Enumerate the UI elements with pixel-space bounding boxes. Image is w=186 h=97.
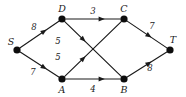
node-D[interactable]	[58, 15, 65, 22]
arrowhead-D-C	[99, 17, 105, 22]
arrowhead-S-A	[40, 64, 47, 69]
node-B[interactable]	[120, 75, 127, 82]
edge-weight-A-B: 4	[89, 84, 95, 94]
edge-weight-D-C: 3	[90, 6, 95, 16]
node-S[interactable]	[13, 46, 20, 53]
edge-S-A	[20, 52, 59, 77]
node-label-S: S	[8, 36, 15, 47]
node-label-A: A	[58, 84, 66, 95]
arrowhead-C-T	[145, 32, 152, 38]
node-label-T: T	[170, 34, 177, 45]
node-T[interactable]	[166, 46, 173, 53]
edge-weight-A-C: 5	[55, 52, 60, 62]
node-label-B: B	[120, 84, 128, 95]
graph-svg: SDCABT 87355478	[0, 0, 186, 97]
node-C[interactable]	[120, 15, 127, 22]
edges-layer	[20, 19, 167, 79]
arrowhead-S-D	[40, 30, 47, 36]
arrowhead-A-B	[99, 77, 105, 82]
edge-weight-S-D: 8	[31, 22, 37, 32]
node-label-C: C	[120, 3, 128, 14]
edge-weight-D-B: 5	[55, 36, 60, 46]
edge-weight-S-A: 7	[30, 67, 36, 77]
node-label-D: D	[57, 3, 66, 14]
graph-diagram-canvas: SDCABT 87355478	[0, 0, 186, 97]
edge-weight-B-T: 8	[147, 63, 153, 73]
edge-S-D	[20, 21, 59, 48]
node-A[interactable]	[58, 75, 65, 82]
edge-weight-C-T: 7	[149, 21, 155, 31]
